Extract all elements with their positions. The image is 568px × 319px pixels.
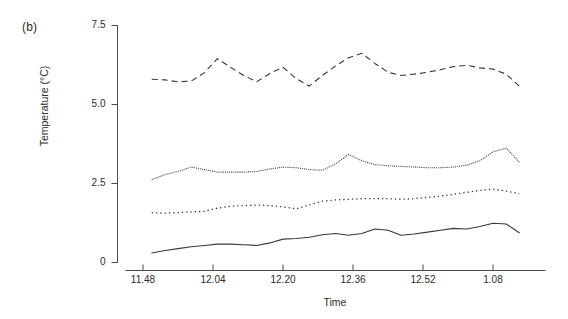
series-1-dashed: [152, 53, 520, 86]
x-tick-label: 11.48: [113, 274, 173, 285]
series-3-coarse-dotted: [152, 189, 520, 213]
y-tick-label: 2.5: [66, 177, 106, 188]
y-tick-label: 0: [66, 256, 106, 267]
panel-label: (b): [22, 20, 37, 34]
x-tick-label: 12.04: [183, 274, 243, 285]
x-tick-label: 12.20: [253, 274, 313, 285]
figure-panel-b: (b) Temperature (°C) Time 02.55.07.5 11.…: [0, 0, 568, 319]
x-tick-label: 1.08: [463, 274, 523, 285]
x-tick-label: 12.36: [323, 274, 383, 285]
series-group: [152, 53, 520, 253]
y-tick-label: 5.0: [66, 98, 106, 109]
x-axis-label: Time: [125, 296, 545, 308]
y-axis-label: Temperature (°C): [38, 16, 50, 196]
series-2-fine-dotted: [152, 148, 520, 180]
series-4-solid: [152, 223, 520, 253]
plot-area: [0, 0, 568, 319]
x-tick-label: 12.52: [393, 274, 453, 285]
y-tick-label: 7.5: [66, 19, 106, 30]
